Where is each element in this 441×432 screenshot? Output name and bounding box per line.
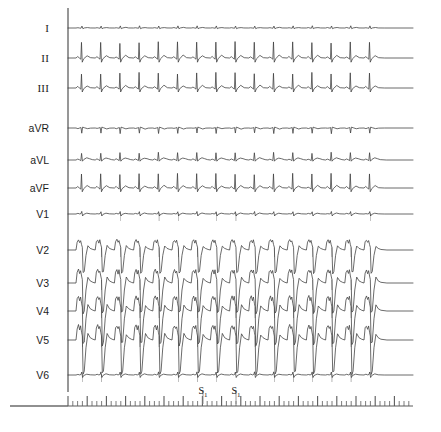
ecg-trace-i [68, 26, 413, 29]
ecg-traces [68, 26, 413, 382]
ecg-axis [10, 8, 68, 406]
annotation-s1-subscript: 1 [204, 391, 208, 399]
annotation-s1: S1 [198, 386, 207, 399]
ecg-trace-v2 [68, 239, 413, 274]
ecg-trace-avl [68, 152, 413, 161]
ecg-trace-ii [68, 42, 413, 63]
annotation-s1-subscript: 1 [237, 391, 241, 399]
ecg-trace-avf [68, 173, 413, 191]
ecg-trace-avr [68, 127, 413, 134]
ecg-trace-iii [68, 72, 413, 92]
annotation-s1: S1 [231, 386, 240, 399]
ecg-trace-v1 [68, 211, 413, 216]
ecg-trace-v3 [68, 269, 413, 314]
ecg-canvas [0, 0, 441, 432]
ecg-trace-v6 [68, 372, 413, 378]
ecg-strip-page: IIIIIIaVRaVLaVFV1V2V3V4V5V6 S1S1 [0, 0, 441, 432]
ecg-trace-v5 [68, 324, 413, 375]
